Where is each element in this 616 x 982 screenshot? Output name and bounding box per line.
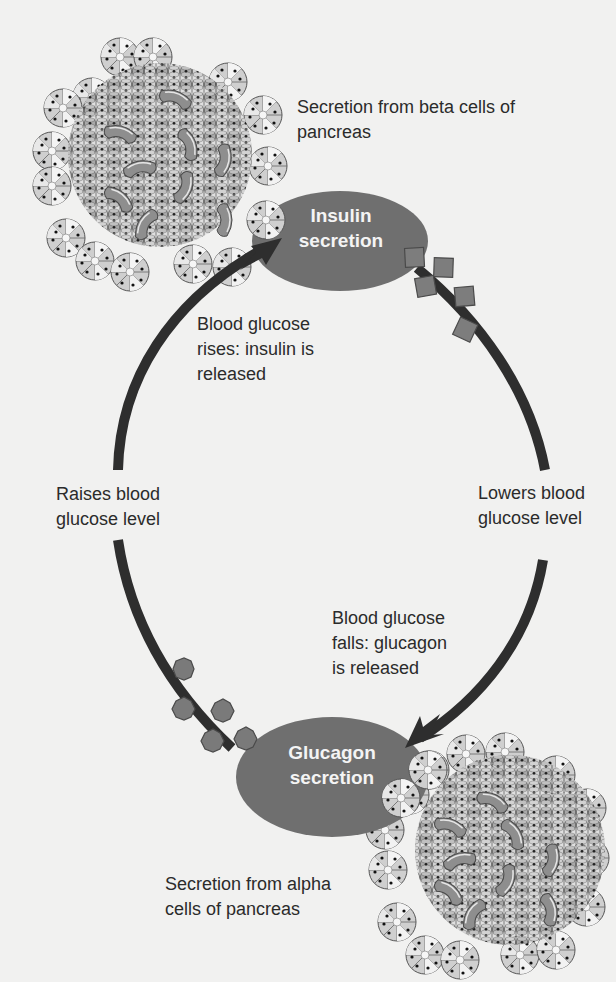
glucose-regulation-diagram: gg: [0, 0, 616, 982]
glucagon-molecules: [172, 658, 257, 752]
raises-glucose-label: Raises blood glucose level: [56, 482, 160, 532]
insulin-secretion-label: Insulin secretion: [280, 203, 402, 253]
beta-cell-source-label: Secretion from beta cells of pancreas: [297, 95, 515, 145]
lowers-glucose-label: Lowers blood glucose level: [478, 481, 585, 531]
alpha-cell-source-label: Secretion from alpha cells of pancreas: [165, 872, 331, 922]
insulin-trigger-label: Blood glucose rises: insulin is released: [197, 312, 314, 387]
glucagon-trigger-label: Blood glucose falls: glucagon is release…: [332, 606, 447, 681]
glucagon-secretion-label: Glucagon secretion: [268, 740, 396, 790]
